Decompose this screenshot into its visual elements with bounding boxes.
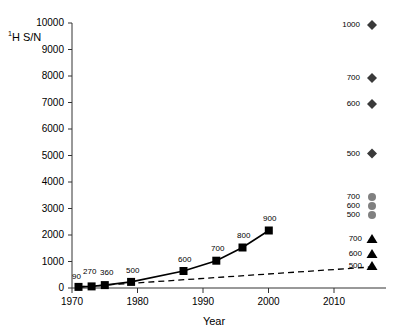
point-label-270: 270 <box>83 268 96 276</box>
y-axis-title-text: H S/N <box>12 31 41 43</box>
diamond-label-600: 600 <box>322 100 360 108</box>
y-tick-label-9000: 9000 <box>18 45 64 55</box>
y-tick-label-4000: 4000 <box>18 177 64 187</box>
diamond-label-500: 500 <box>322 150 360 158</box>
triangle-label-500: 500 <box>322 262 362 270</box>
x-tick-label-1970: 1970 <box>48 297 96 307</box>
point-label-800: 800 <box>237 232 250 240</box>
point-label-700: 700 <box>211 245 224 253</box>
point-label-900: 900 <box>263 215 276 223</box>
point-label-500: 500 <box>126 267 139 275</box>
point-label-90: 90 <box>72 273 81 281</box>
series-projected-circle-markers <box>368 193 376 219</box>
point-label-600: 600 <box>178 256 191 264</box>
x-tick-label-2010: 2010 <box>310 297 358 307</box>
point-label-360: 360 <box>100 269 113 277</box>
triangle-label-700: 700 <box>322 235 362 243</box>
series-projected-diamond-markers <box>367 20 377 159</box>
y-axis-title: 1H S/N <box>8 32 41 43</box>
y-tick-label-5000: 5000 <box>18 151 64 161</box>
y-tick-label-0: 0 <box>18 283 64 293</box>
series-projected-triangle-markers <box>367 234 378 270</box>
x-tick-label-1980: 1980 <box>114 297 162 307</box>
x-tick-label-2000: 2000 <box>245 297 293 307</box>
y-tick-marks <box>68 23 72 288</box>
diamond-label-700: 700 <box>322 74 360 82</box>
y-tick-label-1000: 1000 <box>18 257 64 267</box>
circle-label-600: 600 <box>322 202 360 210</box>
x-axis-title: Year <box>184 316 244 327</box>
y-tick-label-10000: 10000 <box>18 18 64 28</box>
y-tick-label-8000: 8000 <box>18 71 64 81</box>
y-tick-label-3000: 3000 <box>18 204 64 214</box>
chart-figure: 10000 9000 8000 7000 6000 5000 4000 3000… <box>0 0 396 335</box>
triangle-label-600: 600 <box>322 250 362 258</box>
diamond-label-1000: 1000 <box>322 21 360 29</box>
y-tick-label-7000: 7000 <box>18 98 64 108</box>
y-tick-label-6000: 6000 <box>18 124 64 134</box>
circle-label-500: 500 <box>322 211 360 219</box>
y-tick-label-2000: 2000 <box>18 230 64 240</box>
x-tick-marks <box>72 288 334 293</box>
x-tick-label-1990: 1990 <box>179 297 227 307</box>
circle-label-700: 700 <box>322 193 360 201</box>
